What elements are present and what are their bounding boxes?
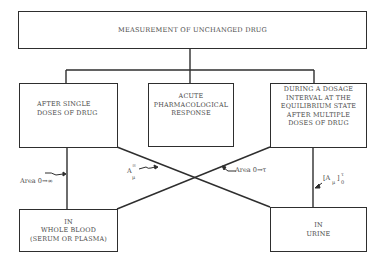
medium-line: URINE [307, 230, 331, 239]
arrow-a-mu-tau-icon [315, 183, 322, 188]
medium-box-urine: IN URINE [270, 207, 367, 252]
condition-box-multiple-dose: DURING A DOSAGE INTERVAL AT THE EQUILIBR… [270, 83, 367, 148]
medium-line: IN [314, 221, 323, 230]
a-sup: ∞ [132, 162, 136, 168]
condition-box-acute-response: ACUTE PHARMACOLOGICAL RESPONSE [148, 83, 234, 147]
a-base: [A [323, 174, 330, 182]
a-sub: μ [132, 174, 135, 180]
edge-label-area-inf: Area 0→∞ [20, 177, 53, 185]
condition-line: AFTER SINGLE [37, 100, 91, 109]
condition-box-single-dose: AFTER SINGLE DOSES OF DRUG [19, 83, 118, 148]
condition-line: DURING A DOSAGE [284, 85, 353, 94]
medium-line: IN [64, 218, 73, 227]
a-sup: τ [341, 171, 344, 177]
arrow-area-tau-icon [222, 166, 236, 171]
medium-line: WHOLE BLOOD [41, 226, 96, 235]
condition-line: AFTER MULTIPLE [287, 111, 350, 120]
edge-label-a-mu-tau: [A μ ] τ 0 [323, 173, 347, 189]
condition-line: EQUILIBRIUM STATE [281, 102, 356, 111]
edge-label-area-tau: Area 0→τ [235, 166, 266, 174]
condition-line: ACUTE [179, 92, 204, 101]
bracket-close: ] [337, 174, 340, 182]
arrow-a-mu-inf-icon [139, 165, 158, 169]
medium-box-whole-blood: IN WHOLE BLOOD (SERUM OR PLASMA) [19, 209, 118, 252]
medium-line: (SERUM OR PLASMA) [30, 235, 107, 244]
title-text: MEASUREMENT OF UNCHANGED DRUG [118, 26, 267, 35]
edge-label-a-mu-inf: A ∞ μ [127, 165, 141, 183]
condition-line: DOSES OF DRUG [288, 119, 349, 128]
a-sub2: 0 [341, 179, 344, 185]
condition-line: INTERVAL AT THE [286, 94, 351, 103]
condition-line: PHARMACOLOGICAL [154, 101, 228, 110]
arrow-area-inf-icon [45, 172, 66, 176]
condition-line: DOSES OF DRUG [37, 109, 98, 118]
title-box: MEASUREMENT OF UNCHANGED DRUG [18, 11, 367, 49]
a-sub: μ [332, 179, 335, 185]
condition-line: RESPONSE [171, 109, 211, 118]
